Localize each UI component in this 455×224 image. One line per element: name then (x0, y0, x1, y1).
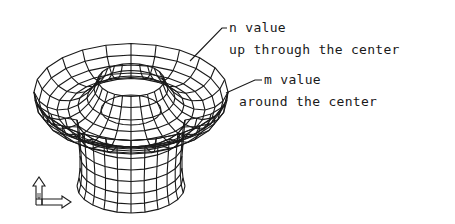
n-value-label: n value (229, 21, 286, 34)
leader-n (190, 28, 227, 61)
n-value-description: up through the center (229, 43, 400, 56)
diagram-canvas: n value up through the center m value ar… (0, 0, 455, 224)
revolved-surface-mesh (0, 0, 455, 224)
m-value-description: around the center (239, 95, 377, 108)
ucs-icon (33, 177, 71, 208)
m-value-label: m value (264, 73, 321, 86)
leader-m (226, 80, 262, 93)
